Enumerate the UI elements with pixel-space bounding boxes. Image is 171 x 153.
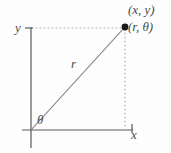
polar-point-label: (r, θ) bbox=[128, 20, 153, 33]
cartesian-point-label: (x, y) bbox=[128, 3, 155, 16]
radius-ray bbox=[31, 28, 124, 130]
angle-label: θ bbox=[37, 113, 43, 126]
y-axis-label: y bbox=[15, 21, 21, 34]
x-axis-label: x bbox=[131, 128, 137, 141]
radius-label: r bbox=[71, 57, 76, 70]
coordinate-diagram: y x r θ (x, y) (r, θ) bbox=[0, 0, 171, 153]
